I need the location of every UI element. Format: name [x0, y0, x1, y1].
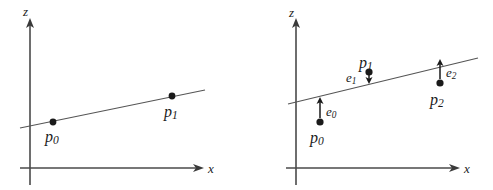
- right-point-p2: [436, 79, 443, 86]
- left-point-p0: [50, 119, 57, 126]
- left-point-p1: [169, 93, 176, 100]
- right-point-p0: [316, 118, 323, 125]
- right-x-axis-label: x: [463, 161, 470, 176]
- right-point-p0-label: p0: [309, 129, 324, 147]
- left-point-p0-label: p0: [44, 128, 59, 146]
- right-error-e2-label: e2: [446, 65, 457, 81]
- figure-container: z x p0 p1 z x: [0, 0, 493, 190]
- right-error-e0-label: e0: [326, 104, 337, 120]
- panel-right: z x e0 p0 p1 e1 e2 p2: [246, 0, 493, 190]
- panel-left: z x p0 p1: [0, 0, 246, 190]
- right-error-e1-label: e1: [346, 70, 356, 86]
- left-point-p1-label: p1: [163, 103, 178, 121]
- right-point-p2-label: p2: [429, 91, 444, 109]
- right-plot: z x e0 p0 p1 e1 e2 p2: [246, 0, 493, 190]
- left-plot: z x p0 p1: [0, 0, 246, 190]
- right-z-axis-label: z: [288, 5, 294, 20]
- left-x-axis-label: x: [207, 161, 214, 176]
- left-z-axis-label: z: [22, 4, 28, 19]
